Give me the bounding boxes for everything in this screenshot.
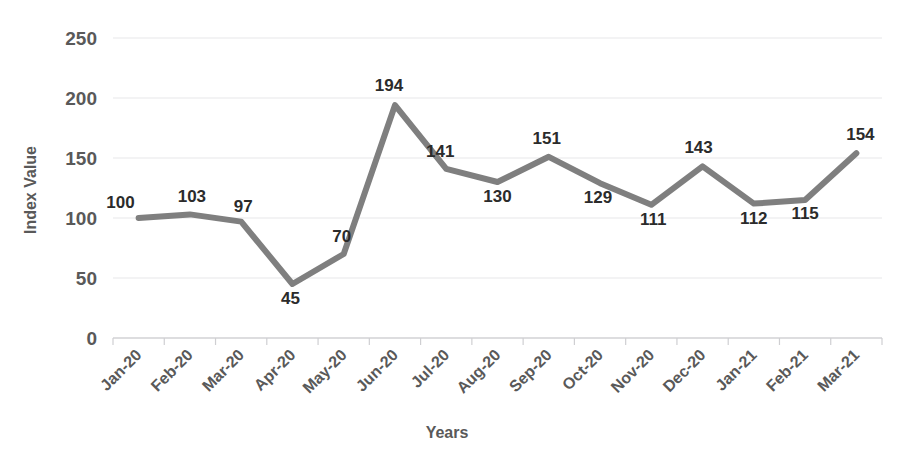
x-tick-label: Jul-20: [408, 346, 453, 391]
x-tick-label: Jan-20: [97, 346, 145, 394]
y-tick-label: 100: [65, 208, 97, 229]
y-tick-label: 150: [65, 148, 97, 169]
x-tick-label: Apr-20: [251, 346, 299, 394]
data-point-label: 143: [684, 138, 712, 157]
data-point-label: 97: [234, 197, 253, 216]
data-point-label: 103: [178, 187, 206, 206]
data-point-label: 112: [740, 209, 767, 228]
y-tick-label: 0: [86, 328, 97, 349]
x-tick-labels: Jan-20Feb-20Mar-20Apr-20May-20Jun-20Jul-…: [97, 346, 863, 396]
data-point-label: 129: [584, 188, 612, 207]
x-tick-label: Nov-20: [608, 346, 658, 396]
data-point-label: 111: [640, 210, 667, 229]
gridlines: [113, 38, 882, 278]
y-axis-title: Index Value: [22, 146, 39, 234]
x-tick-label: Feb-20: [148, 346, 197, 395]
x-tick-label: Mar-20: [199, 346, 248, 395]
data-point-label: 70: [332, 227, 351, 246]
line-chart: 050100150200250 Jan-20Feb-20Mar-20Apr-20…: [0, 0, 898, 463]
data-point-label: 151: [533, 129, 561, 148]
data-point-label: 115: [791, 204, 818, 223]
x-tick-label: Dec-20: [660, 346, 709, 395]
x-tick-label: Jun-20: [353, 346, 402, 395]
x-tick-label: May-20: [299, 346, 349, 396]
x-tick-label: Sep-20: [506, 346, 555, 395]
data-point-labels: 1001039745701941411301511291111431121151…: [106, 76, 875, 308]
x-tick-label: Aug-20: [453, 346, 503, 396]
y-tick-label: 50: [76, 268, 97, 289]
x-tick-label: Mar-21: [814, 346, 863, 395]
y-tick-labels: 050100150200250: [65, 28, 97, 349]
data-point-label: 194: [375, 76, 404, 95]
y-tick-label: 200: [65, 88, 97, 109]
y-tick-label: 250: [65, 28, 97, 49]
x-axis-title: Years: [426, 424, 469, 441]
chart-canvas: 050100150200250 Jan-20Feb-20Mar-20Apr-20…: [0, 0, 898, 463]
x-tick-marks: [113, 338, 882, 345]
data-point-label: 45: [281, 289, 300, 308]
x-tick-label: Oct-20: [559, 346, 606, 393]
x-tick-label: Jan-21: [712, 346, 760, 394]
data-point-label: 154: [846, 125, 875, 144]
data-point-label: 130: [483, 187, 511, 206]
data-point-label: 100: [106, 193, 134, 212]
x-tick-label: Feb-21: [763, 346, 812, 395]
data-point-label: 141: [426, 142, 454, 161]
